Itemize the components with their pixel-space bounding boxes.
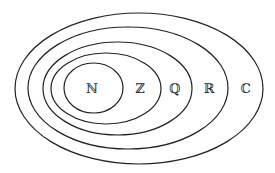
natural-set-label: ℕ [86,81,98,96]
real-set-label: ℝ [204,81,216,96]
integer-set-label: ℤ [135,81,145,96]
complex-set-label: ℂ [241,81,251,96]
rational-set-label: ℚ [169,81,180,96]
real-set-ellipse [28,27,228,149]
number-sets-diagram: ℕ ℤ ℚ ℝ ℂ [0,0,275,173]
